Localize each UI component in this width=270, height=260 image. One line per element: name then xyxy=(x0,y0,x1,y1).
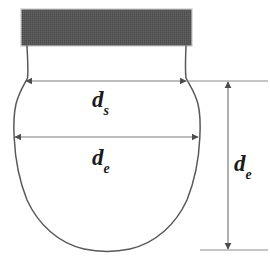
de-horizontal-subscript: e xyxy=(104,161,110,176)
dimension-label-ds: ds xyxy=(92,88,109,114)
dimension-label-de-horizontal: de xyxy=(92,146,110,172)
de-vertical-subscript: e xyxy=(246,167,252,182)
ds-subscript: s xyxy=(104,103,109,118)
de-horizontal-base-symbol: d xyxy=(92,145,104,170)
dimension-label-de-vertical: de xyxy=(234,152,252,178)
pendant-drop-diagram: ds de de xyxy=(0,0,270,260)
diagram-canvas xyxy=(0,0,270,260)
plate-rect xyxy=(21,9,192,46)
de-vertical-base-symbol: d xyxy=(234,151,246,176)
needle-support-plate xyxy=(21,9,192,46)
ds-base-symbol: d xyxy=(92,87,104,112)
